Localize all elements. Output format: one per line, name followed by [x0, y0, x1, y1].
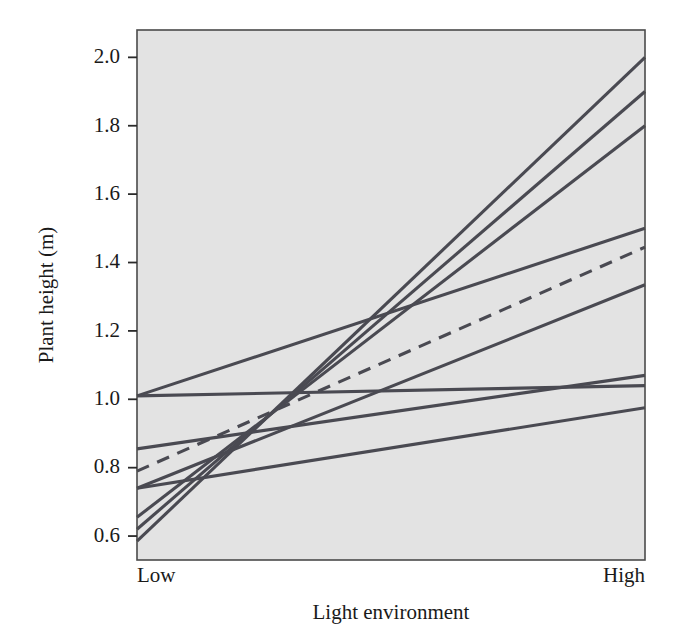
y-tick-label: 1.8 [94, 113, 120, 137]
reaction-norm-figure: 0.60.81.01.21.41.61.82.0 Low High Light … [0, 0, 699, 644]
y-tick-label: 0.6 [94, 523, 120, 547]
y-tick-label: 1.4 [94, 249, 121, 273]
x-tick-label-high: High [603, 563, 646, 587]
y-tick-label: 1.0 [94, 386, 120, 410]
y-axis-title: Plant height (m) [34, 227, 58, 363]
x-tick-label-low: Low [137, 563, 176, 587]
y-tick-label: 0.8 [94, 454, 120, 478]
y-tick-label: 1.6 [94, 181, 120, 205]
y-tick-label: 2.0 [94, 44, 120, 68]
plot-panel-background [137, 30, 645, 560]
y-axis-group: 0.60.81.01.21.41.61.82.0 [94, 44, 137, 547]
plot-svg: 0.60.81.01.21.41.61.82.0 Low High Light … [0, 0, 699, 644]
y-tick-label: 1.2 [94, 318, 120, 342]
x-axis-title: Light environment [313, 600, 470, 624]
